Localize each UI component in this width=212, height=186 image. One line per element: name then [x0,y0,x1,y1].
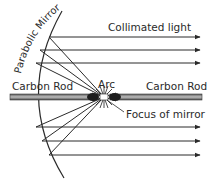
collimated-light-label: Collimated light [108,21,191,33]
carbon-rod-left-label: Carbon Rod [12,80,73,92]
upper-collimated-rays [36,37,200,63]
lower-incident-rays [36,97,104,155]
carbon-rod-left [10,94,98,100]
arc-label: Arc [98,78,115,90]
lower-collimated-rays [36,127,200,155]
focus-leader-line [107,100,124,112]
arc-lamp-diagram: Parabolic Mirror [0,0,212,186]
carbon-rod-right-label: Carbon Rod [146,80,207,92]
carbon-rod-right [110,94,202,100]
focus-of-mirror-label: Focus of mirror [126,108,206,120]
